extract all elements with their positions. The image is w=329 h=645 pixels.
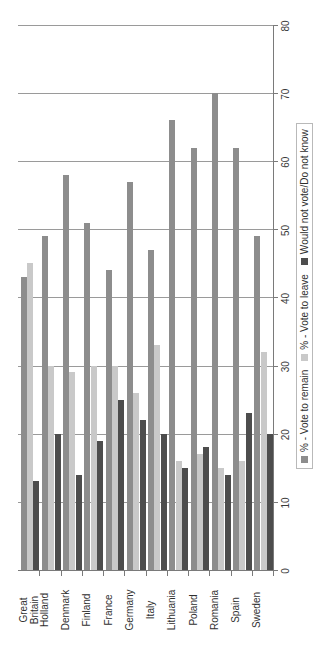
- category-label: France: [103, 577, 114, 643]
- legend-item-remain: % - Vote to remain: [299, 370, 310, 463]
- bar-leave: [197, 454, 203, 570]
- bar-leave: [48, 366, 54, 570]
- value-axis-tick: [273, 93, 278, 94]
- category-label: Sweden: [251, 577, 262, 643]
- bar-remain: [106, 270, 112, 570]
- legend-item-dontknow: Would not vote/Do not know: [299, 129, 310, 265]
- bar-leave: [261, 352, 267, 570]
- value-axis-tick-label: 50: [280, 225, 291, 236]
- bar-remain: [169, 120, 175, 570]
- category-label: Holland: [39, 577, 50, 643]
- bar-group: [82, 26, 103, 570]
- bar-remain: [63, 175, 69, 570]
- bar-leave: [176, 461, 182, 570]
- bar-leave: [27, 263, 33, 570]
- category-tick: [39, 571, 40, 576]
- category-label: Great Britain: [18, 577, 40, 643]
- bar-group: [252, 26, 273, 570]
- bar-group: [231, 26, 252, 570]
- bar-group: [146, 26, 167, 570]
- bar-group: [61, 26, 82, 570]
- value-axis-tick: [273, 229, 278, 230]
- bar-leave: [218, 468, 224, 570]
- category-tick: [188, 571, 189, 576]
- legend-item-leave: % - Vote to leave: [299, 274, 310, 361]
- value-axis-tick: [273, 502, 278, 503]
- category-tick: [146, 571, 147, 576]
- bar-group: [124, 26, 145, 570]
- category-label: Denmark: [60, 577, 71, 643]
- category-tick: [167, 571, 168, 576]
- category-label: Italy: [145, 577, 156, 643]
- value-axis-tick-label: 80: [280, 20, 291, 31]
- legend-swatch-dontknow-icon: [301, 258, 308, 265]
- category-tick: [82, 571, 83, 576]
- bar-remain: [233, 148, 239, 570]
- bar-remain: [191, 148, 197, 570]
- bar-group: [39, 26, 60, 570]
- chart-rotation-wrapper: 01020304050607080 Great BritainHollandDe…: [0, 0, 329, 645]
- value-axis-tick-label: 0: [280, 568, 291, 574]
- bar-remain: [42, 236, 48, 570]
- value-axis-tick: [273, 298, 278, 299]
- value-axis-tick-label: 70: [280, 89, 291, 100]
- bar-group: [209, 26, 230, 570]
- value-axis-tick: [273, 366, 278, 367]
- bar-remain: [254, 236, 260, 570]
- category-label: Romania: [209, 577, 220, 643]
- category-tick: [231, 571, 232, 576]
- bar-group: [188, 26, 209, 570]
- value-axis-tick-label: 20: [280, 429, 291, 440]
- category-tick: [252, 571, 253, 576]
- bar-leave: [69, 372, 75, 570]
- category-tick: [103, 571, 104, 576]
- chart-canvas: 01020304050607080 Great BritainHollandDe…: [0, 0, 329, 645]
- bar-remain: [148, 250, 154, 570]
- value-axis-tick: [273, 25, 278, 26]
- chart-legend: % - Vote to remain % - Vote to leave Wou…: [296, 123, 313, 469]
- legend-label-dontknow: Would not vote/Do not know: [299, 129, 310, 254]
- bar-leave: [239, 461, 245, 570]
- category-tick: [124, 571, 125, 576]
- bar-remain: [21, 277, 27, 570]
- value-axis-tick-label: 60: [280, 157, 291, 168]
- bar-leave: [133, 393, 139, 570]
- bar-leave: [91, 366, 97, 570]
- bar-group: [18, 26, 39, 570]
- category-label: Lithuania: [166, 577, 177, 643]
- bar-remain: [212, 93, 218, 570]
- category-tick: [209, 571, 210, 576]
- bar-group: [103, 26, 124, 570]
- category-label: Finland: [81, 577, 92, 643]
- value-axis-tick-label: 30: [280, 361, 291, 372]
- legend-swatch-leave-icon: [301, 354, 308, 361]
- value-axis-tick: [273, 434, 278, 435]
- plot-area: 01020304050607080 Great BritainHollandDe…: [18, 26, 273, 571]
- bar-group: [167, 26, 188, 570]
- category-tick: [61, 571, 62, 576]
- bar-remain: [84, 223, 90, 570]
- bar-leave: [112, 366, 118, 570]
- legend-swatch-remain-icon: [301, 456, 308, 463]
- value-axis-tick-label: 40: [280, 293, 291, 304]
- value-axis-tick: [273, 161, 278, 162]
- bar-dontknow: [267, 434, 273, 570]
- value-axis-line: [273, 26, 274, 571]
- category-tick: [273, 571, 274, 576]
- bar-remain: [127, 182, 133, 570]
- category-label: Spain: [230, 577, 241, 643]
- bar-chart-figure: 01020304050607080 Great BritainHollandDe…: [0, 0, 329, 645]
- value-axis-tick-label: 10: [280, 497, 291, 508]
- category-label: Germany: [124, 577, 135, 643]
- bar-leave: [154, 345, 160, 570]
- legend-label-remain: % - Vote to remain: [299, 370, 310, 452]
- category-label: Poland: [188, 577, 199, 643]
- legend-label-leave: % - Vote to leave: [299, 274, 310, 350]
